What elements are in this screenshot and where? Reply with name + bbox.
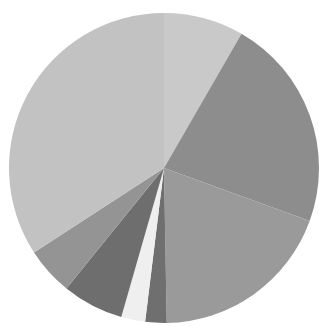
pie-chart-svg [0, 0, 329, 336]
pie-slices-group [9, 13, 319, 323]
pie-chart-container [0, 0, 329, 336]
